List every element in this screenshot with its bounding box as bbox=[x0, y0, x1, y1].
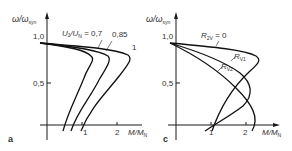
x-axis-arrow-icon bbox=[273, 123, 280, 127]
figure: ω/ωsyn 1,0 0,5 1 2 M/MN a U₁/UN = 0,7 0,… bbox=[0, 0, 292, 151]
curve-label-r2v: R2V = 0 bbox=[201, 31, 227, 41]
curve-label-1: 1 bbox=[132, 43, 137, 52]
curve-label-rv1: RV1 bbox=[234, 52, 246, 62]
y-tick-label-1: 1,0 bbox=[162, 32, 174, 41]
curve-1 bbox=[40, 43, 130, 131]
y-axis-arrow-icon bbox=[174, 12, 178, 19]
x-axis-label: M/MN bbox=[262, 128, 282, 138]
x-tick-label-1: 1 bbox=[83, 128, 88, 137]
curve-label-085: 0,85 bbox=[112, 30, 128, 39]
y-axis-label: ω/ωsyn bbox=[12, 14, 37, 25]
y-tick-label-05: 0,5 bbox=[33, 79, 45, 88]
y-axis-arrow-icon bbox=[45, 12, 49, 19]
leader-line bbox=[216, 41, 219, 46]
panel-label: c bbox=[163, 134, 168, 144]
curve-085 bbox=[40, 43, 109, 131]
panel-c: ω/ωsyn 1,0 0,5 1 2 M/MN c R2V = 0 RV1 RV… bbox=[146, 12, 282, 144]
y-axis-label: ω/ωsyn bbox=[146, 14, 171, 25]
x-tick-label-2: 2 bbox=[115, 128, 120, 137]
leader-line bbox=[98, 40, 102, 48]
panel-label: a bbox=[8, 134, 14, 144]
y-tick-label-1: 1,0 bbox=[33, 32, 45, 41]
x-axis-label: M/MN bbox=[128, 128, 148, 138]
x-tick-label-2: 2 bbox=[243, 128, 248, 137]
y-tick-label-05: 0,5 bbox=[162, 79, 174, 88]
legend-label: U₁/UN = 0,7 bbox=[62, 29, 103, 39]
panel-a: ω/ωsyn 1,0 0,5 1 2 M/MN a U₁/UN = 0,7 0,… bbox=[8, 12, 148, 144]
curve-07 bbox=[40, 43, 93, 131]
